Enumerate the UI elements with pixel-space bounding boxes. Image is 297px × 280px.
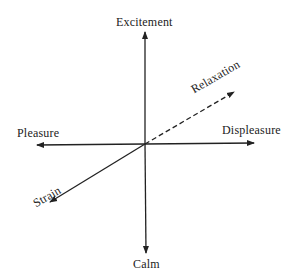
label-calm: Calm — [133, 257, 160, 272]
label-displeasure: Displeasure — [222, 123, 281, 138]
axis-right — [145, 143, 254, 144]
label-excitement: Excitement — [116, 15, 173, 30]
axis-left — [37, 144, 145, 145]
axis-down — [145, 144, 146, 253]
label-pleasure: Pleasure — [17, 126, 59, 141]
axis-relaxation — [145, 92, 234, 144]
axis-strain — [50, 144, 145, 202]
